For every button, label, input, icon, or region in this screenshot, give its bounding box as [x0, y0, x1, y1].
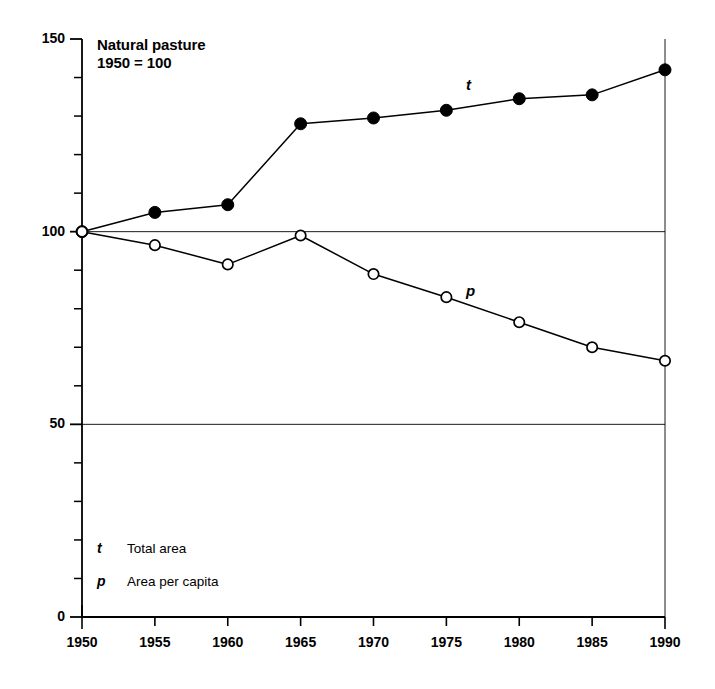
data-point-t-1985: [586, 89, 598, 101]
y-tick-label-50: 50: [49, 415, 65, 431]
x-tick-label-1965: 1965: [271, 634, 331, 650]
data-point-t-1975: [440, 104, 452, 116]
data-point-t-1955: [149, 206, 161, 218]
series-annotation-p: p: [466, 282, 475, 299]
data-point-p-1950: [77, 226, 87, 236]
y-tick-label-150: 150: [42, 30, 65, 46]
axis-group: [82, 39, 665, 617]
data-point-p-1960: [223, 259, 233, 269]
y-tick-label-100: 100: [42, 223, 65, 239]
chart-figure: Natural pasture1950 = 100 t p t Total ar…: [0, 0, 715, 689]
data-point-p-1975: [441, 292, 451, 302]
series-line-t: [82, 70, 665, 232]
x-tick-label-1950: 1950: [52, 634, 112, 650]
data-point-t-1965: [295, 118, 307, 130]
x-tick-label-1985: 1985: [562, 634, 622, 650]
legend-key-t: t: [97, 540, 127, 556]
data-point-p-1985: [587, 342, 597, 352]
series-line-p: [82, 232, 665, 361]
chart-legend: t Total area p Area per capita: [97, 540, 219, 606]
data-point-p-1980: [514, 317, 524, 327]
data-point-p-1955: [150, 240, 160, 250]
data-point-t-1990: [659, 64, 671, 76]
data-point-t-1970: [368, 112, 380, 124]
y-tick-label-0: 0: [57, 608, 65, 624]
chart-title-block: Natural pasture1950 = 100: [97, 36, 206, 73]
chart-subtitle: 1950 = 100: [97, 54, 172, 71]
series-marker-group: [76, 64, 671, 366]
data-point-p-1970: [368, 269, 378, 279]
chart-title: Natural pasture: [97, 36, 206, 53]
data-point-p-1990: [660, 356, 670, 366]
y-tick-group: [70, 39, 82, 617]
legend-item-area-per-capita: p Area per capita: [97, 573, 219, 589]
x-tick-label-1980: 1980: [489, 634, 549, 650]
legend-item-total-area: t Total area: [97, 540, 219, 556]
legend-label-total-area: Total area: [127, 541, 186, 556]
data-point-t-1980: [513, 93, 525, 105]
x-tick-label-1955: 1955: [125, 634, 185, 650]
data-point-t-1960: [222, 199, 234, 211]
data-point-p-1965: [295, 230, 305, 240]
x-tick-label-1960: 1960: [198, 634, 258, 650]
legend-key-p: p: [97, 573, 127, 589]
x-tick-label-1975: 1975: [416, 634, 476, 650]
legend-label-area-per-capita: Area per capita: [127, 574, 219, 589]
x-tick-label-1990: 1990: [635, 634, 695, 650]
x-tick-label-1970: 1970: [344, 634, 404, 650]
gridline-group: [82, 232, 665, 425]
series-annotation-t: t: [466, 76, 471, 93]
